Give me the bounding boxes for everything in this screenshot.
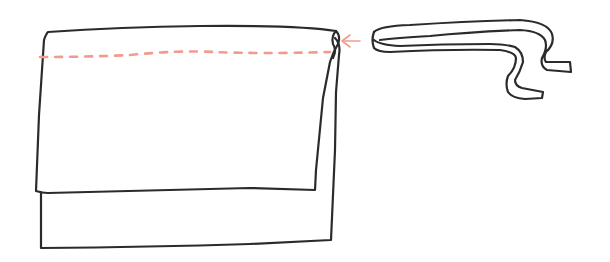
ribbon-tie xyxy=(373,20,572,99)
fabric-back-panel xyxy=(41,38,340,248)
fabric-folded-flap xyxy=(36,26,339,193)
insert-arrow xyxy=(342,35,360,47)
sewing-diagram xyxy=(0,0,610,262)
stitch-line xyxy=(40,51,330,57)
